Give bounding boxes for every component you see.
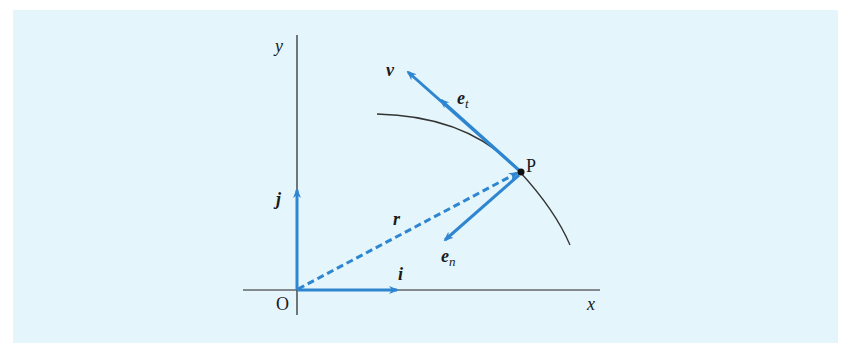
point-label: P <box>526 156 536 176</box>
position-vector-r <box>298 173 517 289</box>
velocity-label: v <box>386 60 395 80</box>
position-label: r <box>393 209 401 229</box>
i-label: i <box>398 264 403 284</box>
tangent-unit-label: et <box>457 88 469 111</box>
j-label: j <box>273 189 282 209</box>
origin-label: O <box>276 294 289 314</box>
point-p <box>518 169 525 176</box>
normal-unit-label: en <box>441 246 456 269</box>
tangent-unit-vector <box>441 100 521 172</box>
y-axis-label: y <box>273 36 283 56</box>
trajectory-curve <box>377 114 570 245</box>
x-axis-label: x <box>586 294 595 314</box>
normal-unit-vector <box>445 175 519 240</box>
vector-diagram: y x O P v et en r i j <box>0 0 850 356</box>
